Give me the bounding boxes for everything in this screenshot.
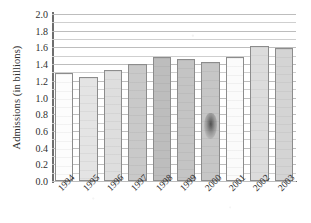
bar-2003: [275, 48, 294, 181]
bar-chart-figure: Admissions (in billions) 0.00.20.40.60.8…: [0, 0, 311, 223]
bar-1998: [153, 57, 172, 181]
gridline: [52, 22, 296, 23]
plot-area: 0.00.20.40.60.81.01.21.41.61.82.0: [52, 14, 296, 181]
bar-2001: [226, 57, 245, 181]
gridline: [52, 14, 296, 15]
bar-1996: [104, 70, 123, 181]
y-tick-label: 1.0: [36, 92, 49, 103]
y-tick-label: 0.8: [36, 109, 49, 120]
y-tick-label: 0.6: [36, 125, 49, 136]
y-tick-label: 0.2: [36, 159, 49, 170]
bar-1999: [177, 59, 196, 181]
gridline: [52, 31, 296, 32]
gridline: [52, 39, 296, 40]
bar-2002: [250, 46, 269, 181]
bar-2000: [201, 62, 220, 181]
bar-1997: [128, 64, 147, 181]
bar-1994: [55, 73, 74, 181]
y-tick-label: 1.6: [36, 42, 49, 53]
y-tick-label: 1.4: [36, 59, 49, 70]
y-axis-title: Admissions (in billions): [11, 15, 22, 180]
y-tick-label: 1.8: [36, 25, 49, 36]
y-tick-label: 1.2: [36, 75, 49, 86]
y-tick-label: 0.0: [36, 176, 49, 187]
y-tick-label: 2.0: [36, 9, 49, 20]
y-tick-label: 0.4: [36, 142, 49, 153]
bar-1995: [79, 77, 98, 181]
